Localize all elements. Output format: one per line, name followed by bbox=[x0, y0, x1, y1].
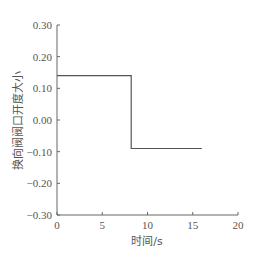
y-tick-label: 0.00 bbox=[33, 114, 53, 126]
x-axis-label: 时间/s bbox=[131, 235, 163, 248]
data-series bbox=[57, 76, 202, 149]
y-axis-ticks: 0.300.200.100.00−0.10−0.20−0.30 bbox=[27, 19, 60, 221]
x-tick-label: 15 bbox=[187, 219, 199, 231]
x-tick-label: 5 bbox=[100, 219, 106, 231]
y-axis-label: 换向阀阀口开度大小 bbox=[11, 71, 25, 170]
y-tick-label: 0.10 bbox=[33, 82, 53, 94]
x-tick-label: 20 bbox=[233, 219, 245, 231]
y-tick-label: 0.20 bbox=[33, 51, 53, 63]
y-tick-label: 0.30 bbox=[33, 19, 53, 31]
y-tick-label: −0.30 bbox=[27, 209, 53, 221]
y-tick-label: −0.20 bbox=[27, 177, 53, 189]
x-tick-label: 0 bbox=[54, 219, 60, 231]
y-tick-label: −0.10 bbox=[27, 146, 53, 158]
axes bbox=[57, 25, 238, 215]
step-line-chart: 0.300.200.100.00−0.10−0.20−0.30 05101520… bbox=[0, 0, 263, 261]
series-line bbox=[57, 76, 202, 149]
x-tick-label: 10 bbox=[142, 219, 154, 231]
